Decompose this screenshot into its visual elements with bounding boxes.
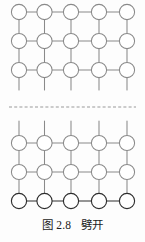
atom [63,33,78,48]
atom [91,4,106,19]
atom [37,193,52,208]
atom [37,135,52,150]
atom [119,164,134,179]
atom [11,62,26,77]
atom [11,4,26,19]
lower-crystal-block [11,121,134,209]
atom [37,4,52,19]
atom [91,33,106,48]
atom [37,164,52,179]
lower-dangling-bonds [19,121,127,135]
atom [63,4,78,19]
upper-crystal-block [11,4,134,90]
atom [91,193,106,208]
atom [63,193,78,208]
atom [119,193,134,208]
lower-atoms [11,135,134,179]
atom [37,33,52,48]
atom [119,62,134,77]
crystal-cleavage-diagram [0,0,145,215]
atom [119,4,134,19]
atom [11,193,26,208]
atom [91,62,106,77]
figure-caption: 图 2.8 劈开 [0,217,145,233]
atom [119,33,134,48]
atom [11,135,26,150]
atom [37,62,52,77]
atom [91,164,106,179]
atom [63,135,78,150]
atom [11,33,26,48]
atom [63,62,78,77]
figure-container: 图 2.8 劈开 [0,0,145,242]
atom [91,135,106,150]
atom [119,135,134,150]
atom [11,164,26,179]
atom [63,164,78,179]
upper-dangling-bonds [19,78,127,90]
